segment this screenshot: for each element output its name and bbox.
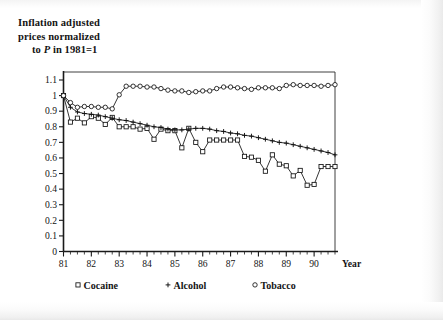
data-point-alcohol (235, 131, 240, 136)
y-axis-tick-label: 0.4 (45, 183, 57, 194)
data-point-alcohol (200, 126, 205, 131)
data-point-tobacco (96, 105, 100, 109)
data-point-alcohol (75, 110, 80, 115)
data-point-cocaine (68, 120, 72, 124)
y-axis-tick-label: 0.5 (45, 168, 57, 179)
data-point-tobacco (110, 107, 114, 111)
data-point-tobacco (159, 86, 163, 90)
data-point-tobacco (180, 89, 184, 93)
data-point-tobacco (214, 86, 218, 90)
data-point-cocaine (117, 125, 121, 129)
series-group (61, 82, 337, 187)
data-point-tobacco (82, 104, 86, 108)
y-axis-tick-label: 0.6 (45, 152, 57, 163)
data-point-alcohol (305, 145, 310, 150)
data-point-alcohol (263, 137, 268, 142)
data-point-cocaine (82, 121, 86, 125)
x-axis-tick-label: 90 (309, 258, 319, 269)
legend-marker-tobacco (253, 283, 257, 287)
data-point-cocaine (326, 164, 330, 168)
data-point-alcohol (214, 128, 219, 133)
data-point-cocaine (194, 140, 198, 144)
data-point-alcohol (256, 135, 261, 140)
data-point-alcohol (152, 124, 157, 129)
data-point-tobacco (166, 88, 170, 92)
legend-label-cocaine: Cocaine (84, 280, 119, 291)
legend-marker-alcohol (166, 283, 171, 288)
data-point-alcohol (103, 114, 108, 119)
data-point-alcohol (221, 129, 226, 134)
data-point-tobacco (298, 83, 302, 87)
data-point-tobacco (103, 105, 107, 109)
data-point-alcohol (249, 134, 254, 139)
data-point-alcohol (291, 142, 296, 147)
data-point-tobacco (270, 86, 274, 90)
data-point-alcohol (138, 121, 143, 126)
data-point-alcohol (131, 120, 136, 125)
data-point-alcohol (124, 118, 129, 123)
x-axis-tick-label: 84 (142, 258, 152, 269)
legend-item-cocaine: Cocaine (76, 280, 119, 291)
data-point-tobacco (61, 93, 65, 97)
data-point-alcohol (319, 149, 324, 154)
data-point-tobacco (263, 86, 267, 90)
y-axis-tick-label: 1.1 (45, 74, 57, 85)
data-point-cocaine (103, 122, 107, 126)
data-point-alcohol (82, 111, 87, 116)
data-point-tobacco (305, 83, 309, 87)
series-tobacco (61, 82, 337, 111)
x-axis-tick-label: 89 (281, 258, 291, 269)
y-axis-tick-label: 0.8 (45, 121, 57, 132)
y-axis-tick-label: 0.1 (45, 230, 57, 241)
data-point-tobacco (319, 84, 323, 88)
data-point-tobacco (291, 82, 295, 86)
y-axis-tick-label: 0.2 (45, 215, 57, 226)
data-point-cocaine (222, 138, 226, 142)
data-point-tobacco (75, 105, 79, 109)
data-point-tobacco (326, 83, 330, 87)
legend-marker-cocaine (76, 283, 80, 287)
data-point-tobacco (152, 85, 156, 89)
y-axis-tick-label: 1 (52, 90, 57, 101)
data-point-tobacco (138, 84, 142, 88)
data-point-tobacco (284, 83, 288, 87)
data-point-cocaine (242, 154, 246, 158)
data-point-cocaine (152, 137, 156, 141)
data-point-alcohol (207, 127, 212, 132)
data-point-cocaine (256, 158, 260, 162)
axes-group: 00.10.20.30.40.50.60.70.80.911.181828384… (45, 71, 362, 269)
data-point-tobacco (256, 86, 260, 90)
data-point-cocaine (201, 150, 205, 154)
data-point-alcohol (228, 131, 233, 136)
data-point-cocaine (228, 138, 232, 142)
data-point-cocaine (235, 138, 239, 142)
x-axis-tick-label: 82 (87, 258, 97, 269)
data-point-cocaine (180, 146, 184, 150)
data-point-cocaine (333, 164, 337, 168)
legend-item-tobacco: Tobacco (253, 280, 296, 291)
data-point-cocaine (284, 164, 288, 168)
data-point-tobacco (249, 87, 253, 91)
data-point-cocaine (270, 153, 274, 157)
x-axis-tick-label: 86 (198, 258, 208, 269)
data-point-tobacco (68, 100, 72, 104)
data-point-cocaine (305, 183, 309, 187)
data-point-cocaine (208, 138, 212, 142)
data-point-tobacco (242, 86, 246, 90)
data-point-tobacco (312, 83, 316, 87)
data-point-tobacco (187, 90, 191, 94)
data-point-alcohol (277, 140, 282, 145)
x-axis-tick-label: 81 (59, 258, 69, 269)
data-point-cocaine (249, 155, 253, 159)
y-axis-tick-label: 0.7 (45, 137, 57, 148)
data-point-cocaine (131, 125, 135, 129)
data-point-tobacco (117, 93, 121, 97)
data-point-alcohol (284, 141, 289, 146)
y-axis-tick-label: 0.9 (45, 105, 57, 116)
data-point-alcohol (193, 126, 198, 131)
data-point-alcohol (179, 127, 184, 132)
data-point-tobacco (277, 86, 281, 90)
x-axis-tick-label: 83 (114, 258, 124, 269)
data-point-alcohol (312, 147, 317, 152)
data-point-cocaine (277, 162, 281, 166)
